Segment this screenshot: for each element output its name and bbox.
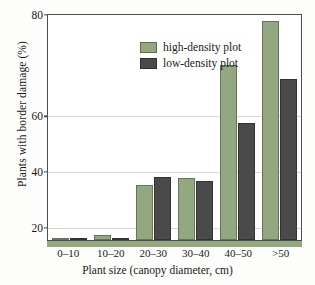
x-axis-title: Plant size (canopy diameter, cm) <box>0 264 315 276</box>
y-tick-label-20: 20 <box>32 222 44 234</box>
legend-item-low-density: low-density plot <box>140 57 241 69</box>
x-tick-label-over-50: >50 <box>260 247 303 259</box>
bar-low-density-40-50 <box>238 123 255 240</box>
plot-area: 20 40 60 80 <box>47 14 302 240</box>
legend-swatch-low-density <box>140 58 157 69</box>
bar-high-density-20-30 <box>136 185 153 240</box>
y-tick-label-80: 80 <box>32 9 44 21</box>
x-tick-label-0-10: 0–10 <box>47 247 90 259</box>
bar-group-0-10 <box>48 15 90 240</box>
bar-high-density-over-50 <box>262 21 279 240</box>
x-tick-label-20-30: 20–30 <box>132 247 175 259</box>
x-axis-baseline <box>47 240 302 247</box>
bar-group-10-20 <box>90 15 132 240</box>
x-tick-label-40-50: 40–50 <box>217 247 260 259</box>
x-tick-label-30-40: 30–40 <box>175 247 218 259</box>
bar-low-density-20-30 <box>154 177 171 240</box>
y-tick-label-40: 40 <box>32 166 44 178</box>
x-tick-label-10-20: 10–20 <box>90 247 133 259</box>
bar-chart-figure: Plants with border damage (%) 20 40 60 8… <box>0 0 315 285</box>
y-axis-title: Plants with border damage (%) <box>16 14 28 214</box>
legend-label-low-density: low-density plot <box>163 57 238 69</box>
bar-high-density-30-40 <box>178 178 195 240</box>
legend-swatch-high-density <box>140 42 157 53</box>
legend: high-density plot low-density plot <box>140 41 241 73</box>
legend-label-high-density: high-density plot <box>163 41 241 53</box>
legend-item-high-density: high-density plot <box>140 41 241 53</box>
bar-low-density-over-50 <box>280 79 297 240</box>
x-axis-tick-labels: 0–10 10–20 20–30 30–40 40–50 >50 <box>47 247 302 259</box>
bar-low-density-30-40 <box>196 181 213 240</box>
bar-group-over-50 <box>259 15 301 240</box>
bar-high-density-40-50 <box>220 65 237 240</box>
y-tick-label-60: 60 <box>32 110 44 122</box>
